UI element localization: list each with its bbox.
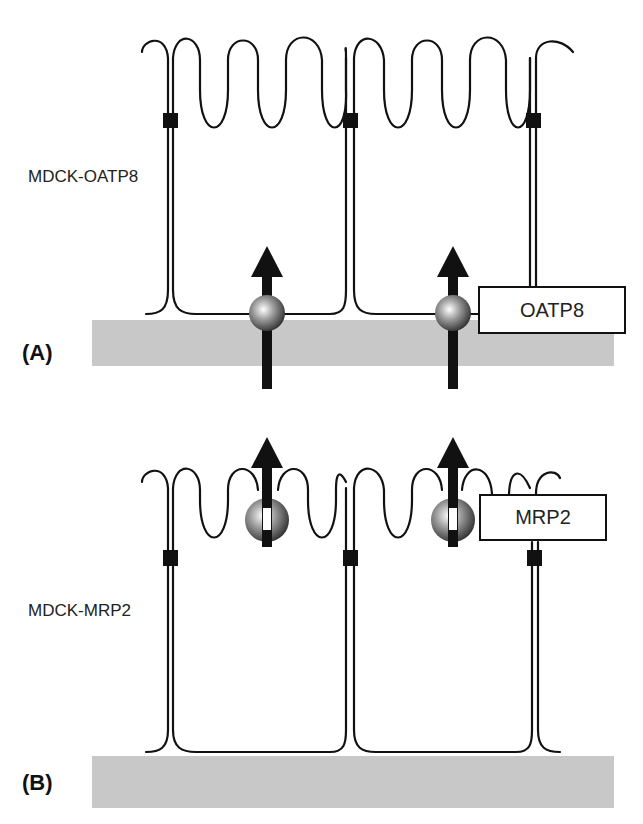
transporter-box-mrp2: MRP2 <box>479 494 607 541</box>
uptake-arrow-icon <box>249 246 285 389</box>
cell-membrane <box>536 41 573 286</box>
cell-membrane <box>538 542 560 752</box>
cell-membrane <box>173 38 346 128</box>
cell-line-label-b: MDCK-MRP2 <box>28 601 131 621</box>
cell-membrane <box>354 38 530 128</box>
tight-junction <box>527 550 542 566</box>
tight-junction <box>163 550 178 566</box>
tight-junction <box>526 113 541 128</box>
panel-label-a: (A) <box>22 340 53 366</box>
transporter-box-oatp8: OATP8 <box>478 286 626 334</box>
panel-a <box>92 38 614 390</box>
efflux-arrow-icon <box>431 437 475 547</box>
tight-junction <box>163 113 178 128</box>
tight-junction <box>343 113 358 128</box>
filter-support-b <box>92 756 614 808</box>
tight-junction <box>343 550 358 566</box>
uptake-arrow-icon <box>435 246 471 389</box>
epithelial-transport-diagram: MDCK-OATP8 (A) OATP8 MDCK-MRP2 (B) MRP2 <box>0 0 643 824</box>
cell-line-label-a: MDCK-OATP8 <box>28 167 138 187</box>
panel-label-b: (B) <box>22 770 53 796</box>
efflux-arrow-icon <box>245 437 289 547</box>
panel-b <box>92 437 614 808</box>
cell-membrane <box>142 471 168 752</box>
cell-membrane <box>142 41 168 314</box>
